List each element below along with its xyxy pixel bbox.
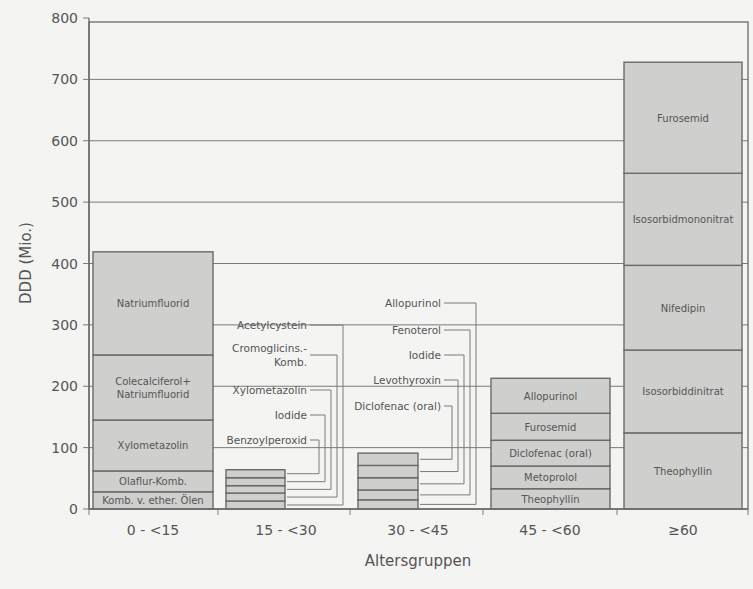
- segment-label: Furosemid: [525, 422, 577, 433]
- y-tick-label: 400: [51, 256, 78, 272]
- callout-label: Iodide: [275, 409, 307, 421]
- callout-label: Iodide: [409, 349, 441, 361]
- callout-label: Fenoterol: [392, 324, 441, 336]
- bar-segment: [358, 478, 418, 490]
- y-tick-label: 700: [51, 71, 78, 87]
- segment-label: Diclofenac (oral): [509, 448, 592, 459]
- segment-label: Theophyllin: [521, 494, 580, 505]
- bar-segment: [358, 500, 418, 509]
- callout-label: Levothyroxin: [373, 374, 441, 386]
- bar-segment: [358, 490, 418, 500]
- x-tick-label: ≥60: [668, 522, 698, 538]
- bar-segment: [226, 478, 285, 486]
- y-tick-label: 800: [51, 10, 78, 26]
- leader-line: [420, 406, 452, 459]
- bar-segment: [226, 501, 285, 509]
- segment-label: Isosorbiddinitrat: [642, 386, 724, 397]
- bar-segment: [226, 486, 285, 493]
- stacked-bar-chart: 0100200300400500600700800 Komb. v. ether…: [0, 0, 753, 589]
- callout-label: Allopurinol: [385, 297, 441, 309]
- bar-segment: [226, 493, 285, 501]
- segment-label: Metoprolol: [524, 472, 577, 483]
- segment-label: Natriumfluorid: [117, 298, 190, 309]
- x-axis-title: Altersgruppen: [365, 552, 472, 570]
- segment-label: Xylometazolin: [118, 440, 189, 451]
- callout-label: Diclofenac (oral): [354, 400, 441, 412]
- y-tick-label: 0: [69, 501, 78, 517]
- y-tick-label: 100: [51, 440, 78, 456]
- y-tick-label: 500: [51, 194, 78, 210]
- segment-label: Isosorbidmononitrat: [633, 214, 734, 225]
- bar-0: Komb. v. ether. ÖlenOlaflur-Komb.Xylomet…: [93, 252, 213, 509]
- segment-label: Natriumfluorid: [117, 389, 190, 400]
- x-tick-label: 45 - <60: [519, 522, 580, 538]
- bar-segment: [93, 355, 213, 420]
- bar-segment: [358, 453, 418, 465]
- bar-1: [226, 470, 285, 509]
- y-tick-label: 200: [51, 378, 78, 394]
- callout-label: Benzoylperoxid: [227, 434, 308, 446]
- bars: Komb. v. ether. ÖlenOlaflur-Komb.Xylomet…: [93, 62, 742, 509]
- leader-line: [287, 355, 337, 497]
- bar-3: TheophyllinMetoprololDiclofenac (oral)Fu…: [491, 378, 610, 509]
- x-tick-label: 0 - <15: [127, 522, 179, 538]
- segment-label: Olaflur-Komb.: [119, 476, 187, 487]
- segment-label: Nifedipin: [661, 303, 706, 314]
- segment-label: Furosemid: [657, 113, 709, 124]
- bar-2: [358, 453, 418, 509]
- y-tick-label: 600: [51, 133, 78, 149]
- callout-label: Xylometazolin: [233, 384, 307, 396]
- bar-segment: [226, 470, 285, 478]
- y-axis: 0100200300400500600700800: [51, 10, 89, 517]
- segment-label: Komb. v. ether. Ölen: [102, 494, 203, 506]
- y-axis-title: DDD (Mio.): [17, 222, 35, 304]
- bar-4: TheophyllinIsosorbiddinitratNifedipinIso…: [624, 62, 742, 509]
- segment-label: Colecalciferol+: [115, 376, 191, 387]
- x-tick-label: 15 - <30: [255, 522, 316, 538]
- y-tick-label: 300: [51, 317, 78, 333]
- x-tick-label: 30 - <45: [387, 522, 448, 538]
- segment-label: Theophyllin: [653, 466, 712, 477]
- bar-segment: [358, 465, 418, 477]
- callout-label: Acetylcystein: [237, 319, 307, 331]
- callout-label: Cromoglicins.-: [232, 342, 307, 354]
- segment-label: Allopurinol: [524, 391, 577, 402]
- x-axis: 0 - <1515 - <3030 - <4545 - <60≥60: [89, 509, 748, 538]
- callout-label: Komb.: [274, 356, 307, 368]
